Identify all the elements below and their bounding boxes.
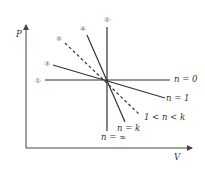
x-axis-label: V xyxy=(174,152,181,162)
line-marker-3: ③ xyxy=(44,60,50,68)
line-label-5: 1 < n < k xyxy=(144,112,185,122)
line-marker-5: ⑤ xyxy=(56,35,62,43)
line-marker-2: ② xyxy=(104,16,110,24)
process-line-4 xyxy=(87,35,125,122)
line-label-2: n = ∞ xyxy=(101,132,126,142)
line-marker-4: ④ xyxy=(80,25,86,33)
pv-diagram: P V ①n = 0②n = ∞③n = 1④n = k⑤1 < n < k xyxy=(0,0,205,173)
line-label-3: n = 1 xyxy=(166,93,189,103)
process-line-3 xyxy=(53,65,165,98)
y-axis-label: P xyxy=(15,29,22,39)
line-label-1: n = 0 xyxy=(174,74,198,84)
line-marker-1: ① xyxy=(35,77,41,85)
line-label-4: n = k xyxy=(117,123,140,133)
process-line-5 xyxy=(65,43,140,115)
